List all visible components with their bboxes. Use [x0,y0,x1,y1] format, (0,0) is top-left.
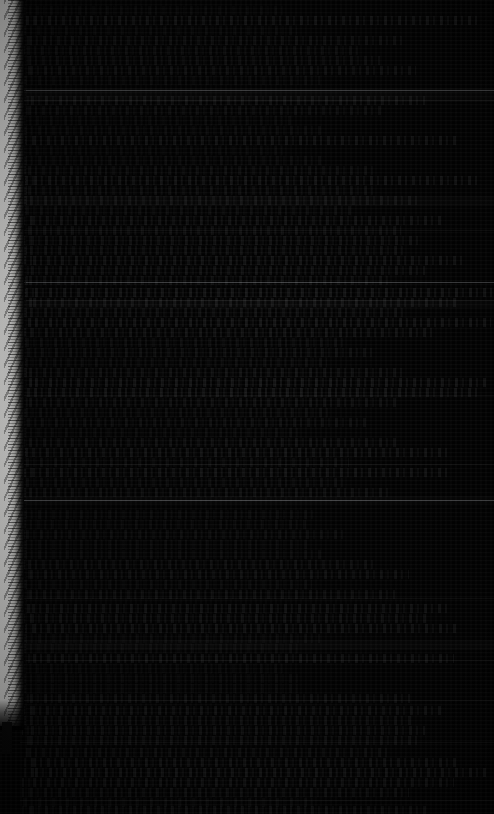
console-text-line [22,318,491,327]
console-separator-rule [20,300,494,301]
console-text-line [22,256,466,265]
console-text-line [22,468,451,477]
console-text-line [22,368,405,377]
console-text-line [22,520,309,529]
console-separator-rule [20,100,494,101]
console-text-line [22,684,301,693]
console-text-line [22,46,363,55]
console-text-line [22,378,490,387]
console-text-line [22,458,349,467]
console-text-line [22,76,320,85]
console-text-line [22,736,417,745]
console-text-line [22,438,399,447]
console-text-line [22,540,309,549]
console-text-line [22,788,409,797]
console-text-line [22,654,454,663]
console-text-line [22,186,376,195]
console-output-area[interactable] [0,0,494,814]
console-text-line [22,166,377,175]
screenshot-root [0,0,494,814]
console-text-line [22,614,429,623]
console-text-line [22,136,457,145]
console-text-line [22,36,402,45]
console-text-line [22,6,285,15]
console-text-line [22,488,392,497]
console-text-line [22,328,436,337]
console-separator-rule [20,742,494,743]
console-text-line [22,66,416,75]
console-text-line [22,448,449,457]
console-text-line [22,106,381,115]
console-text-line [22,116,291,125]
console-text-line [22,308,406,317]
console-text-line [22,798,317,807]
console-text-line [22,418,369,427]
console-text-line [22,530,348,539]
console-text-line [22,778,454,787]
console-text-line [22,276,390,285]
console-text-line [22,560,378,569]
console-text-line [22,428,299,437]
console-separator-rule [20,700,494,701]
console-text-line [22,246,406,255]
console-highlight-band [20,300,494,308]
console-text-line [22,16,478,25]
console-highlight-band [20,496,494,504]
console-text-line [22,398,396,407]
console-text-line [22,56,380,65]
console-text-line [22,604,447,613]
console-separator-rule [20,598,494,599]
console-text-line [22,726,425,735]
console-highlight-band [20,196,494,206]
console-text-line [22,478,344,487]
console-text-line [22,408,333,417]
console-text-line [22,768,488,777]
console-text-line [22,716,413,725]
console-text-line [22,348,372,357]
console-text-line [22,644,302,653]
console-text-line [22,358,327,367]
console-text-line [22,748,388,757]
console-text-line [22,156,323,165]
console-separator-rule [20,500,494,501]
console-text-line [22,146,286,155]
console-text-line [22,96,425,105]
console-separator-rule [20,90,494,91]
console-separator-rule [20,395,494,396]
console-text-line [22,126,322,135]
console-text-line [22,806,430,814]
console-text-line [22,664,288,673]
console-text-line [22,674,303,683]
console-text-line [22,510,315,519]
console-separator-rule [20,282,494,283]
console-text-line [22,758,458,767]
console-text-line [22,288,494,297]
console-separator-rule [20,800,494,801]
console-text-line [22,236,423,245]
console-separator-rule [20,464,494,465]
console-text-line [22,590,395,599]
character-cell-texture [0,0,494,814]
console-text-line [22,206,352,215]
console-text-line [22,338,345,347]
console-text-line [22,388,477,397]
console-text-line [22,26,297,35]
console-separator-rule [20,660,494,661]
console-text-line [22,580,312,589]
console-text-line [22,550,324,559]
console-highlight-band [20,640,494,650]
console-highlight-band [20,88,494,102]
console-text-line [22,266,425,275]
console-text-line [22,694,410,703]
console-text-line [22,176,479,185]
console-separator-rule [20,230,494,231]
console-text-line [22,634,320,643]
console-text-line [22,196,420,205]
console-text-line [22,570,409,579]
console-text-line [22,624,457,633]
console-text-line [22,706,444,715]
console-text-line [22,226,401,235]
scanline-texture [0,0,494,814]
console-text-line [22,216,444,225]
console-text-line [22,298,460,307]
